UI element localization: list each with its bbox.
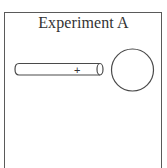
experiment-figure: + xyxy=(0,0,167,168)
positive-charge-label: + xyxy=(74,64,80,76)
charged-rod: + xyxy=(15,64,103,76)
neutral-sphere xyxy=(112,49,154,91)
rod-end-cap xyxy=(97,64,103,76)
rod-body xyxy=(15,64,100,76)
